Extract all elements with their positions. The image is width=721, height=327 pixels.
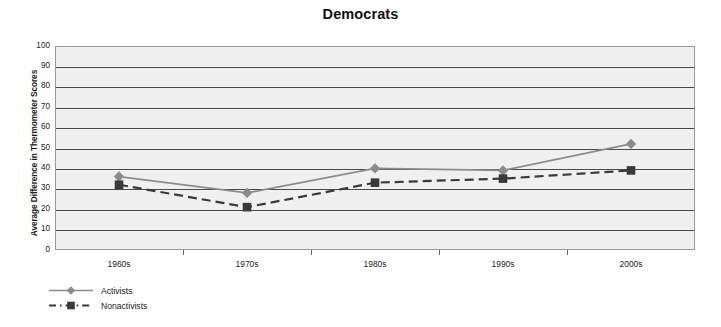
y-axis-tick-labels: 1009080706050403020100 [18, 46, 50, 250]
legend-swatch-activists [48, 284, 94, 297]
chart-title: Democrats [0, 6, 721, 22]
y-tick-label: 80 [20, 82, 50, 90]
x-tick-mark [567, 250, 568, 255]
data-point-marker [626, 139, 636, 149]
y-tick-label: 70 [20, 103, 50, 111]
x-tick-label: 1970s [236, 259, 259, 269]
y-tick-label: 20 [20, 205, 50, 213]
data-point-marker [371, 178, 380, 187]
data-point-marker [114, 171, 124, 181]
x-tick-label: 1980s [364, 259, 387, 269]
data-point-marker [243, 203, 252, 212]
y-tick-label: 50 [20, 144, 50, 152]
data-point-marker [370, 163, 380, 173]
x-tick-label: 1990s [492, 259, 515, 269]
y-tick-label: 40 [20, 164, 50, 172]
data-point-marker [242, 188, 252, 198]
legend-swatch-nonactivists [48, 299, 94, 312]
y-tick-label: 60 [20, 123, 50, 131]
data-point-marker [115, 180, 124, 189]
y-tick-label: 30 [20, 184, 50, 192]
data-point-marker [499, 174, 508, 183]
y-tick-label: 0 [20, 246, 50, 254]
x-tick-mark [183, 250, 184, 255]
legend-label-activists: Activists [101, 286, 133, 296]
y-tick-label: 100 [20, 42, 50, 50]
x-tick-mark [439, 250, 440, 255]
series-overlay [55, 46, 695, 250]
legend-item-nonactivists: Nonactivists [48, 298, 147, 313]
x-tick-label: 1960s [108, 259, 131, 269]
chart-figure: Democrats Average Difference in Thermome… [0, 0, 721, 327]
legend-item-activists: Activists [48, 283, 147, 298]
chart-legend: Activists Nonactivists [48, 283, 147, 313]
legend-label-nonactivists: Nonactivists [101, 301, 147, 311]
series-line-nonactivists [119, 170, 631, 207]
y-tick-label: 90 [20, 62, 50, 70]
x-tick-label: 2000s [620, 259, 643, 269]
data-point-marker [627, 166, 636, 175]
x-tick-mark [311, 250, 312, 255]
x-axis-tick-labels: 1960s1970s1980s1990s2000s [55, 250, 695, 276]
data-point-marker [498, 165, 508, 175]
y-tick-label: 10 [20, 225, 50, 233]
